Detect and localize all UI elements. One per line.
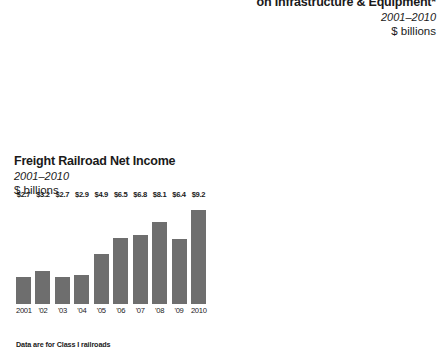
right-chart-subtitle: 2001–2010 [230, 10, 436, 24]
axis-tick-label: 2001 [16, 306, 31, 315]
left-chart-plot-area: $2.7$3.2$2.7$2.9$4.9$6.5$6.8$8.1$6.4$9.2 [16, 200, 206, 304]
bar-column: $2.9 [74, 200, 89, 304]
left-chart-x-axis: 2001'02'03'04'05'06'07'08'092010 [16, 306, 206, 315]
right-chart-header: on Infrastructure & Equipment* 2001–2010… [230, 0, 436, 38]
axis-tick-label: '09 [172, 306, 187, 315]
bar [191, 210, 206, 304]
bar-value-label: $2.7 [56, 190, 70, 199]
left-chart-subtitle: 2001–2010 [14, 169, 175, 183]
bar [94, 254, 109, 304]
bar-column: $6.5 [113, 200, 128, 304]
bar [133, 235, 148, 304]
bar [74, 275, 89, 305]
axis-tick-label: '06 [113, 306, 128, 315]
bar-column: $2.7 [16, 200, 31, 304]
bar [55, 277, 70, 304]
bar [16, 277, 31, 304]
bar-column: $3.2 [35, 200, 50, 304]
net-income-chart-panel: Freight Railroad Net Income 2001–2010 $ … [0, 0, 222, 359]
bar [113, 238, 128, 304]
axis-tick-label: '02 [35, 306, 50, 315]
bar-value-label: $3.2 [36, 190, 50, 199]
bar-value-label: $6.5 [114, 190, 128, 199]
bar-column: $6.4 [172, 200, 187, 304]
axis-tick-label: 2010 [191, 306, 206, 315]
bar-column: $6.8 [133, 200, 148, 304]
axis-tick-label: '04 [74, 306, 89, 315]
axis-tick-label: '05 [94, 306, 109, 315]
bar-column: $9.2 [191, 200, 206, 304]
axis-tick-label: '03 [55, 306, 70, 315]
bar-value-label: $2.7 [17, 190, 31, 199]
left-chart-title: Freight Railroad Net Income [14, 154, 175, 169]
bar-value-label: $8.1 [153, 190, 167, 199]
bar [172, 239, 187, 304]
right-chart-units: $ billions [230, 24, 436, 38]
right-chart-title: on Infrastructure & Equipment* [230, 0, 436, 10]
bar-column: $2.7 [55, 200, 70, 304]
bar-value-label: $4.9 [94, 190, 108, 199]
bar-column: $8.1 [152, 200, 167, 304]
bar [35, 271, 50, 304]
axis-tick-label: '08 [152, 306, 167, 315]
bar-value-label: $6.4 [172, 190, 186, 199]
bar-value-label: $9.2 [192, 190, 206, 199]
left-chart-source-note: Data are for Class I railroads [16, 340, 110, 349]
bar-value-label: $2.9 [75, 190, 89, 199]
bar-column: $4.9 [94, 200, 109, 304]
infrastructure-spending-chart-panel: on Infrastructure & Equipment* 2001–2010… [222, 0, 444, 359]
bar [152, 222, 167, 304]
axis-tick-label: '07 [133, 306, 148, 315]
bar-value-label: $6.8 [133, 190, 147, 199]
